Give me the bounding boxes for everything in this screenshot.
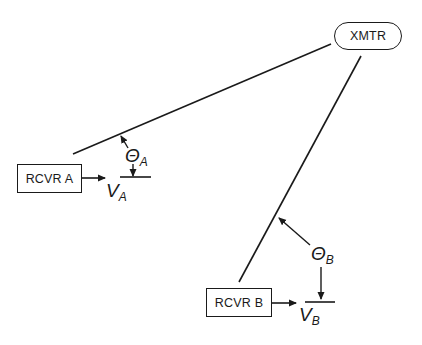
receiver-b-label: RCVR B [215,296,263,310]
theta-a-label: ΘA [125,146,148,168]
diagram-canvas: XMTR RCVR A RCVR B ΘA VA ΘB VB [0,0,422,345]
transmitter-node: XMTR [334,22,402,50]
theta-b-angle-arrow [279,218,310,245]
receiver-a-label: RCVR A [26,172,74,186]
bearing-line-a [73,44,331,154]
theta-b-label: ΘB [311,244,334,266]
receiver-a-node: RCVR A [17,164,82,193]
transmitter-label: XMTR [350,29,386,43]
bearing-line-b [239,56,361,282]
v-a-label: VA [106,181,127,203]
v-b-label: VB [299,305,320,327]
receiver-b-node: RCVR B [206,288,272,317]
